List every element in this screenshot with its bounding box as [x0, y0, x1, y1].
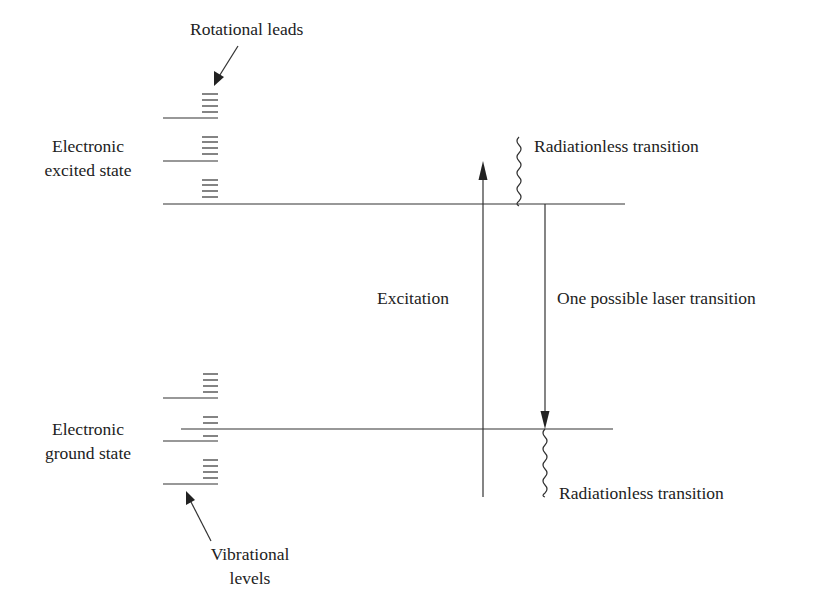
radiationless-bottom-wavy-line	[543, 429, 547, 497]
excited-rotational-group-1	[202, 94, 218, 112]
laser-transition-arrowhead-icon	[541, 411, 550, 429]
vibrational-levels-label-line2: levels	[190, 567, 310, 589]
radiationless-top-wavy-line	[517, 137, 521, 206]
rotational-leads-pointer	[218, 46, 238, 78]
vibrational-levels-label-line1: Vibrational	[190, 543, 310, 565]
ground-state-label-line1: Electronic	[18, 418, 158, 440]
laser-transition-label: One possible laser transition	[557, 287, 756, 309]
excited-state-label-line2: excited state	[18, 159, 158, 181]
rotational-leads-label: Rotational leads	[190, 18, 300, 40]
radiationless-bottom-label: Radiationless transition	[559, 482, 724, 504]
ground-rotational-group-3	[203, 460, 218, 478]
excited-rotational-group-3	[202, 180, 218, 197]
excitation-label: Excitation	[377, 287, 449, 309]
ground-state-label-line2: ground state	[18, 442, 158, 464]
vibrational-levels-pointer-arrowhead-icon	[186, 491, 195, 505]
ground-rotational-group-1	[203, 374, 218, 392]
rotational-leads-pointer-arrowhead-icon	[214, 71, 224, 86]
excited-rotational-group-2	[202, 137, 218, 154]
excited-state-label-line1: Electronic	[18, 135, 158, 157]
radiationless-top-label: Radiationless transition	[534, 135, 699, 157]
vibrational-levels-pointer	[190, 500, 211, 541]
ground-rotational-group-2	[203, 417, 218, 436]
excitation-arrowhead-icon	[479, 161, 488, 180]
